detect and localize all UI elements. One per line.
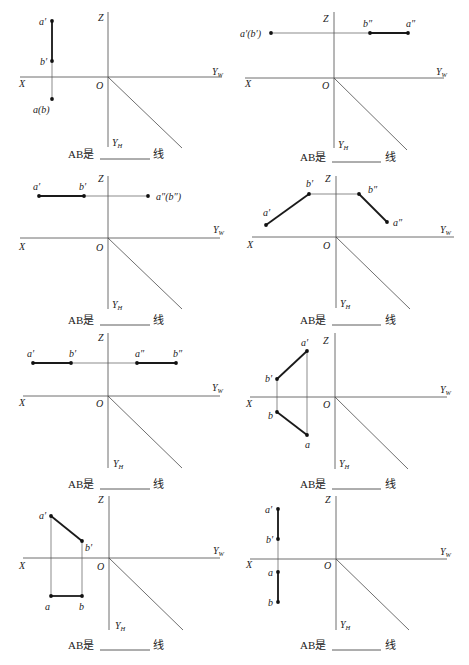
point-label: a′: [263, 207, 271, 218]
yh-axis-label: YH: [112, 299, 123, 311]
projection-panel-6: a′b′baZXOYWYHAB是线: [245, 333, 452, 490]
projection-panel-8: a′b′abZXOYWYHAB是线: [245, 494, 452, 651]
yh-yw-45-degree-line: [108, 77, 182, 148]
origin-label: O: [323, 240, 330, 251]
projection-point: [50, 97, 54, 101]
x-axis-label: X: [18, 78, 26, 89]
yh-yw-45-degree-line: [335, 397, 408, 469]
caption-suffix: 线: [153, 638, 164, 651]
yw-axis-label: YW: [213, 545, 225, 557]
projection-point: [135, 361, 139, 365]
z-axis-label: Z: [323, 13, 329, 24]
yh-axis-label: YH: [339, 458, 350, 470]
projection-point: [357, 192, 361, 196]
projection-panel-7: a′b′abZXOYWYHAB是线: [18, 494, 225, 651]
point-label: b′: [266, 534, 274, 545]
projection-point: [269, 31, 273, 35]
z-axis-label: Z: [98, 173, 104, 184]
projection-point: [80, 594, 84, 598]
answer-caption: AB是线: [68, 477, 164, 490]
origin-label: O: [96, 80, 103, 91]
point-label: a″: [393, 217, 403, 228]
point-label: b′: [85, 542, 93, 553]
projection-point: [275, 410, 279, 414]
projection-point: [49, 514, 53, 518]
caption-prefix: AB是: [68, 478, 94, 490]
yh-axis-label: YH: [113, 458, 124, 470]
point-label: a′: [27, 348, 35, 359]
point-label: a: [305, 439, 310, 450]
x-axis-label: X: [245, 559, 253, 570]
z-axis-label: Z: [325, 173, 331, 184]
caption-suffix: 线: [385, 638, 396, 651]
point-label: b′: [306, 178, 314, 189]
yh-axis-label: YH: [115, 620, 126, 632]
x-axis-label: X: [246, 239, 254, 250]
caption-prefix: AB是: [68, 314, 94, 326]
caption-prefix: AB是: [300, 151, 326, 163]
projection-point: [276, 600, 280, 604]
point-label: a(b): [33, 104, 50, 116]
projection-point: [37, 194, 41, 198]
x-axis-label: X: [18, 560, 26, 571]
yh-yw-45-degree-line: [336, 237, 410, 309]
point-label: a′: [39, 16, 47, 27]
answer-caption: AB是线: [68, 313, 164, 326]
yw-axis-label: YW: [440, 224, 452, 236]
yw-axis-label: YW: [213, 224, 225, 236]
point-label: b′: [40, 56, 48, 67]
origin-label: O: [322, 80, 329, 91]
z-axis-label: Z: [98, 332, 104, 343]
z-axis-label: Z: [325, 494, 331, 505]
origin-label: O: [323, 399, 330, 410]
point-label: b: [268, 597, 273, 608]
point-label: b: [268, 410, 273, 421]
point-label: a′: [39, 510, 47, 521]
projection-point: [307, 192, 311, 196]
origin-label: O: [96, 398, 103, 409]
point-label: b′: [265, 373, 273, 384]
point-label: a: [268, 567, 273, 578]
point-label: b′: [79, 181, 87, 192]
z-axis-label: Z: [98, 494, 104, 505]
caption-suffix: 线: [153, 313, 164, 326]
origin-label: O: [97, 561, 104, 572]
projection-point: [276, 507, 280, 511]
yh-axis-label: YH: [340, 619, 351, 631]
projection-point: [305, 433, 309, 437]
point-label: a″: [135, 348, 145, 359]
projection-point: [276, 570, 280, 574]
yw-axis-label: YW: [212, 382, 224, 394]
caption-prefix: AB是: [300, 314, 326, 326]
projection-point: [69, 361, 73, 365]
yw-axis-label: YW: [212, 66, 224, 78]
caption-suffix: 线: [153, 477, 164, 490]
origin-label: O: [324, 560, 331, 571]
projection-point: [174, 361, 178, 365]
answer-caption: AB是线: [300, 150, 396, 163]
point-label: a′(b′): [240, 28, 262, 40]
projection-point: [275, 377, 279, 381]
point-label: b″: [173, 348, 183, 359]
caption-prefix: AB是: [300, 639, 326, 651]
answer-caption: AB是线: [300, 638, 396, 651]
projection-exercise-sheet: a′b′a(b)ZXOYWYHAB是线a′(b′)b″a″ZXOYWYHAB是线…: [0, 0, 469, 665]
projection-panel-5: a′b′a″b″ZXOYWYHAB是线: [18, 332, 224, 490]
projection-point: [264, 223, 268, 227]
caption-prefix: AB是: [68, 639, 94, 651]
projection-panel-1: a′b′a(b)ZXOYWYHAB是线: [18, 12, 224, 160]
caption-prefix: AB是: [68, 148, 94, 160]
answer-caption: AB是线: [300, 313, 396, 326]
projection-point: [80, 539, 84, 543]
projection-point: [50, 59, 54, 63]
answer-caption: AB是线: [300, 477, 396, 490]
projection-panel-4: a′b′b″a″ZXOYWYHAB是线: [246, 173, 454, 326]
answer-caption: AB是线: [68, 147, 164, 160]
point-label: b: [79, 601, 84, 612]
projection-point: [305, 349, 309, 353]
projection-panel-2: a′(b′)b″a″ZXOYWYHAB是线: [240, 12, 448, 163]
projection-point: [49, 594, 53, 598]
yh-axis-label: YH: [340, 298, 351, 310]
projection-point: [385, 220, 389, 224]
segment-projection-line: [277, 351, 307, 379]
